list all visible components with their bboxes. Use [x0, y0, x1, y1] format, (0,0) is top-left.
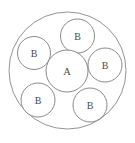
- circle-packing-diagram: B B B B B A: [0, 0, 135, 143]
- satellite-label-lower-right: B: [87, 100, 94, 111]
- satellite-label-lower-left: B: [35, 95, 42, 106]
- diagram-root: B B B B B A: [0, 0, 135, 143]
- satellite-label-right: B: [102, 60, 109, 71]
- satellite-label-upper-left: B: [31, 48, 38, 59]
- satellite-label-top: B: [74, 31, 81, 42]
- center-label: A: [63, 66, 71, 77]
